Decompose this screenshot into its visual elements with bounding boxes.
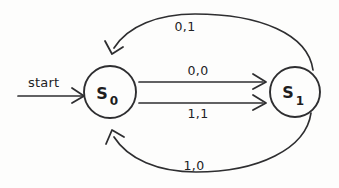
transition-bottom — [106, 113, 311, 172]
transition-upper-label: 0,0 — [188, 63, 209, 78]
state-s0[interactable]: S 0 — [84, 66, 136, 118]
state-diagram: start 0,1 0,0 1,1 1,0 S 0 — [0, 0, 339, 188]
state-s1-circle[interactable] — [270, 67, 320, 117]
state-s0-subscript: 0 — [110, 94, 118, 108]
start-label: start — [28, 75, 59, 90]
state-s1-letter: S — [282, 83, 294, 102]
state-s1-subscript: 1 — [296, 94, 304, 108]
transition-bottom-label: 1,0 — [184, 158, 205, 173]
transition-lower-label: 1,1 — [188, 106, 209, 121]
state-s0-circle[interactable] — [84, 66, 136, 118]
state-s1[interactable]: S 1 — [270, 67, 320, 117]
state-s0-letter: S — [96, 84, 108, 103]
transition-top-arc — [114, 14, 313, 70]
transition-top — [105, 14, 313, 70]
transition-top-label: 0,1 — [175, 19, 196, 34]
transition-bottom-arc — [114, 113, 311, 172]
start-arrow — [18, 88, 84, 103]
fsm-canvas: start 0,1 0,0 1,1 1,0 S 0 — [0, 0, 339, 188]
